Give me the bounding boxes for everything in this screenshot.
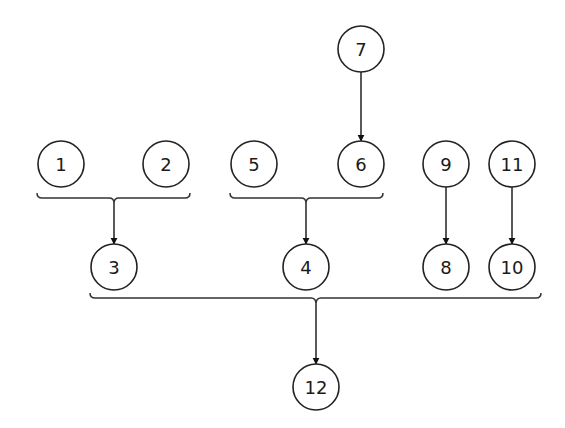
node-11[interactable]: 11 [489,141,535,187]
dependency-diagram: 1 2 3 4 5 6 7 8 [0,0,565,428]
nodes: 1 2 3 4 5 6 7 8 [38,26,535,410]
node-label: 5 [248,154,259,175]
node-9[interactable]: 9 [423,141,469,187]
group-brace-3-4-8-10-to-12 [90,293,541,364]
node-label: 6 [355,154,366,175]
node-7[interactable]: 7 [338,26,384,72]
brace [37,193,190,203]
node-5[interactable]: 5 [231,141,277,187]
node-3[interactable]: 3 [91,244,137,290]
brace [90,293,541,304]
node-2[interactable]: 2 [143,141,189,187]
node-label: 7 [355,39,366,60]
node-label: 1 [55,154,66,175]
node-6[interactable]: 6 [338,141,384,187]
node-label: 4 [300,257,311,278]
node-label: 2 [160,154,171,175]
node-label: 9 [440,154,451,175]
node-12[interactable]: 12 [293,364,339,410]
node-label: 12 [305,377,328,398]
group-brace-1-2-to-3 [37,193,190,244]
node-label: 8 [440,257,451,278]
node-10[interactable]: 10 [489,244,535,290]
node-4[interactable]: 4 [283,244,329,290]
node-label: 11 [501,154,524,175]
node-8[interactable]: 8 [423,244,469,290]
group-brace-5-6-to-4 [230,193,383,244]
node-label: 10 [501,257,524,278]
node-1[interactable]: 1 [38,141,84,187]
node-label: 3 [108,257,119,278]
brace [230,193,383,203]
